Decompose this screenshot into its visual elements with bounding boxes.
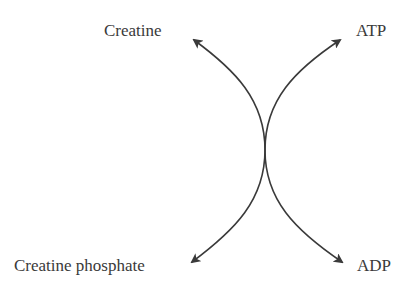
arrow-creatine-phosphate [192,150,265,262]
arrow-adp [265,150,342,262]
arrow-atp [265,40,340,150]
arrow-creatine [194,40,265,150]
coupled-reaction-arrows [0,0,420,297]
